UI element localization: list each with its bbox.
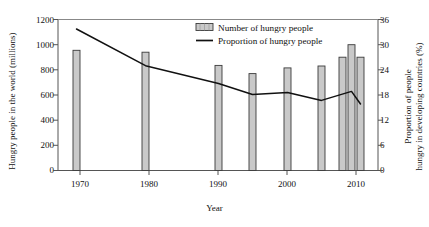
bar-1995 <box>249 74 256 171</box>
bar-2005 <box>318 66 325 171</box>
y-axis-right-ticks <box>378 20 383 171</box>
bar-2010 <box>357 57 364 170</box>
bar-2008 <box>339 57 346 170</box>
legend: Number of hungry people Proportion of hu… <box>196 23 322 46</box>
legend-label-number-of-hungry-people: Number of hungry people <box>218 23 313 33</box>
x-axis-ticks <box>80 171 356 176</box>
chart-figure: Hungry people in the world (millions) Pr… <box>0 0 429 227</box>
bar-1979 <box>142 52 149 170</box>
plot-area: Number of hungry people Proportion of hu… <box>0 0 429 227</box>
bar-2000 <box>284 68 291 171</box>
bar-1969 <box>73 50 80 170</box>
bar-1990 <box>215 65 222 170</box>
legend-label-proportion-of-hungry-people: Proportion of hungry people <box>218 36 322 46</box>
bar-series-number-of-hungry-people <box>73 45 364 171</box>
y-axis-left-ticks <box>53 20 58 171</box>
bar-2009 <box>348 45 355 171</box>
